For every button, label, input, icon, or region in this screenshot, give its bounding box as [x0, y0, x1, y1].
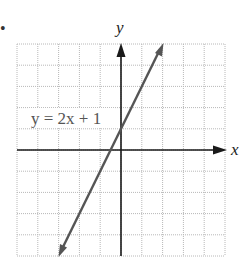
y-axis-label: y	[114, 18, 124, 37]
line-arrow-bottom-icon	[59, 244, 68, 257]
equation-label: y = 2x + 1	[31, 109, 101, 128]
x-axis-label: x	[230, 140, 239, 159]
bullet-marker: •	[0, 20, 6, 37]
coordinate-plane: • y x y = 2x + 1	[0, 0, 241, 268]
y-axis-arrow-icon	[117, 43, 126, 57]
axes	[17, 43, 227, 256]
